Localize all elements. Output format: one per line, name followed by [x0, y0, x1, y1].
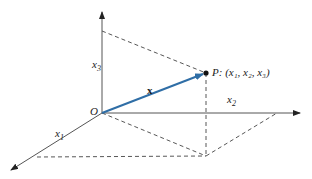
projection-lines — [37, 31, 277, 157]
vector-label: x — [147, 84, 153, 96]
axes — [11, 12, 300, 170]
axes-graphic — [0, 0, 312, 179]
origin-label: O — [90, 105, 98, 117]
vector-diagram: x3 x2 x1 O x P: (x₁, x₂, x₃) — [0, 0, 312, 179]
x1-axis-label: x1 — [55, 127, 64, 142]
point-p — [203, 70, 208, 75]
point-label: P: (x₁, x₂, x₃) — [212, 66, 270, 78]
x2-axis-label: x2 — [227, 93, 236, 108]
x3-axis-label: x3 — [92, 58, 101, 73]
